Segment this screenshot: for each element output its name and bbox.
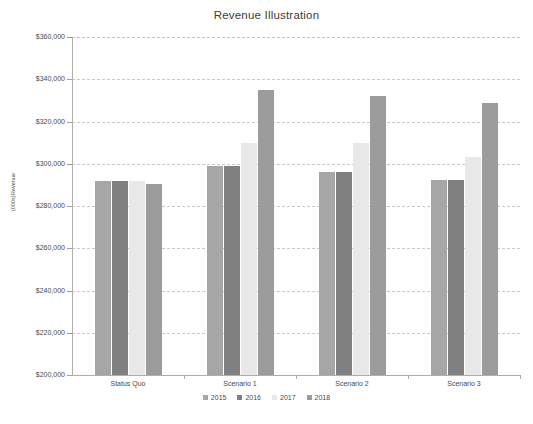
y-axis-tick-label: $280,000 (7, 202, 65, 209)
bar-2015-scenario-1[interactable] (207, 166, 223, 375)
y-axis-tick (67, 333, 72, 334)
bar-2015-scenario-3[interactable] (431, 180, 447, 375)
y-axis-tick-label: $260,000 (7, 244, 65, 251)
y-axis-tick (67, 248, 72, 249)
gridline (72, 79, 520, 80)
y-axis-tick (67, 79, 72, 80)
plot-area (72, 37, 520, 375)
chart-title: Revenue Illustration (0, 9, 533, 21)
y-axis-tick-label: $340,000 (7, 75, 65, 82)
legend-swatch-icon (203, 395, 208, 400)
legend-label: 2015 (211, 394, 227, 401)
gridline (72, 122, 520, 123)
legend-item-2018[interactable]: 2018 (307, 394, 331, 401)
legend-swatch-icon (237, 395, 242, 400)
x-axis-category-label: Scenario 2 (296, 380, 408, 387)
x-axis-category-label: Scenario 1 (184, 380, 296, 387)
y-axis-tick-label: $240,000 (7, 287, 65, 294)
y-axis-tick (67, 375, 72, 376)
x-axis-tick (408, 375, 409, 379)
y-axis-tick (67, 291, 72, 292)
y-axis-tick-label: $200,000 (7, 371, 65, 378)
y-axis-tick (67, 37, 72, 38)
y-axis-tick-label: $300,000 (7, 160, 65, 167)
y-axis-tick-label: $360,000 (7, 33, 65, 40)
bar-2016-scenario-1[interactable] (224, 166, 240, 375)
legend-item-2016[interactable]: 2016 (237, 394, 261, 401)
y-axis-tick (67, 122, 72, 123)
bar-2017-scenario-1[interactable] (241, 143, 257, 375)
bar-2016-status-quo[interactable] (112, 181, 128, 375)
bar-2018-scenario-1[interactable] (258, 90, 274, 375)
legend-item-2017[interactable]: 2017 (272, 394, 296, 401)
bar-2018-scenario-2[interactable] (370, 96, 386, 375)
gridline (72, 37, 520, 38)
bar-2017-scenario-2[interactable] (353, 143, 369, 375)
bar-2015-scenario-2[interactable] (319, 172, 335, 375)
y-axis-line (72, 37, 73, 376)
y-axis-tick-label: $220,000 (7, 329, 65, 336)
bar-2017-scenario-3[interactable] (465, 157, 481, 375)
x-axis-tick (520, 375, 521, 379)
y-axis-tick-label: $320,000 (7, 118, 65, 125)
y-axis-tick (67, 206, 72, 207)
legend-swatch-icon (307, 395, 312, 400)
x-axis-tick (296, 375, 297, 379)
bar-2015-status-quo[interactable] (95, 181, 111, 375)
chart-legend: 2015201620172018 (0, 394, 533, 401)
y-axis-labels: $360,000$340,000$320,000$300,000$280,000… (2, 0, 65, 424)
chart-container: Revenue Illustration Revenue (000s) $360… (0, 0, 533, 424)
legend-label: 2018 (315, 394, 331, 401)
x-axis-tick (184, 375, 185, 379)
bar-2018-status-quo[interactable] (146, 184, 162, 375)
x-axis-category-label: Scenario 3 (408, 380, 520, 387)
gridline (72, 164, 520, 165)
legend-item-2015[interactable]: 2015 (203, 394, 227, 401)
x-axis-category-label: Status Quo (72, 380, 184, 387)
bar-2016-scenario-3[interactable] (448, 180, 464, 375)
bar-2018-scenario-3[interactable] (482, 103, 498, 376)
legend-label: 2016 (245, 394, 261, 401)
y-axis-tick (67, 164, 72, 165)
legend-swatch-icon (272, 395, 277, 400)
legend-label: 2017 (280, 394, 296, 401)
bar-2017-status-quo[interactable] (129, 181, 145, 375)
bar-2016-scenario-2[interactable] (336, 172, 352, 375)
